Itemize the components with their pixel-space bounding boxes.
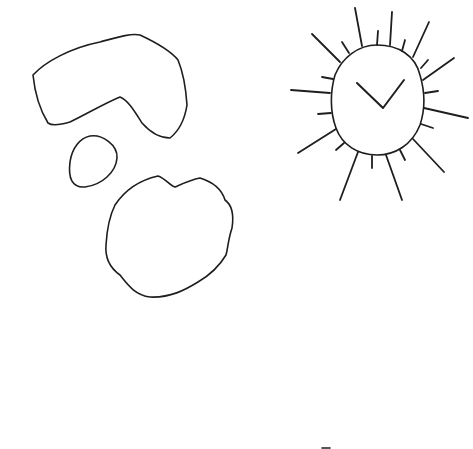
sun (291, 8, 468, 200)
small-oval (70, 136, 118, 187)
sun-circle (331, 45, 423, 155)
bumpy-blob (106, 176, 233, 297)
check-mark-icon (357, 80, 404, 108)
boomerang-shape (33, 35, 187, 138)
sketch-canvas (0, 0, 473, 449)
